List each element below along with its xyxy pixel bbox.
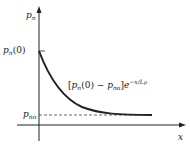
- x-axis-label: x: [178, 133, 183, 142]
- y-axis-arrow-icon: [37, 6, 42, 13]
- start-value-label: pn(0): [3, 46, 25, 56]
- formula-label: [pn(0) − pno]e−x/Lp: [68, 79, 147, 91]
- x-axis-arrow-icon: [179, 123, 186, 128]
- y-axis-label: pn: [26, 11, 36, 21]
- equilibrium-label: pno: [23, 110, 36, 120]
- diagram-canvas: [0, 0, 190, 149]
